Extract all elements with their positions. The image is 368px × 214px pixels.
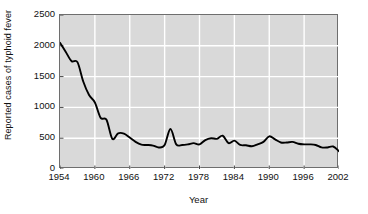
x-axis-label: Year bbox=[59, 194, 338, 205]
typhoid-fever-line-chart: Reported cases of typhoid fever 2500 200… bbox=[0, 0, 368, 214]
y-tick-label: 1500 bbox=[11, 71, 55, 81]
plot-canvas bbox=[60, 15, 339, 169]
x-tick-label: 2002 bbox=[318, 171, 358, 182]
y-axis-label: Reported cases of typhoid fever bbox=[0, 0, 16, 182]
gridlines bbox=[60, 15, 339, 169]
y-tick-label: 2500 bbox=[11, 9, 55, 19]
y-tick-label: 2000 bbox=[11, 40, 55, 50]
y-tick-label: 1000 bbox=[11, 101, 55, 111]
plot-area bbox=[59, 14, 338, 168]
y-tick-label: 500 bbox=[11, 132, 55, 142]
